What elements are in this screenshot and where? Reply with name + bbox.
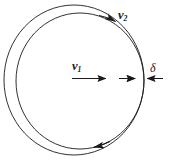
annular-gap-diagram xyxy=(0,0,172,162)
label-v1-subscript: 1 xyxy=(78,65,82,74)
v2-arrow-group xyxy=(99,16,116,22)
inner-circle xyxy=(16,13,144,149)
label-delta: δ xyxy=(150,62,156,74)
label-v2-subscript: 2 xyxy=(124,14,128,23)
outer-circle xyxy=(4,5,144,155)
label-v1: v1 xyxy=(72,60,81,73)
figure-canvas: v1 v2 δ xyxy=(0,0,172,162)
v2-arrow-arc xyxy=(99,16,116,22)
label-v2: v2 xyxy=(118,9,127,22)
